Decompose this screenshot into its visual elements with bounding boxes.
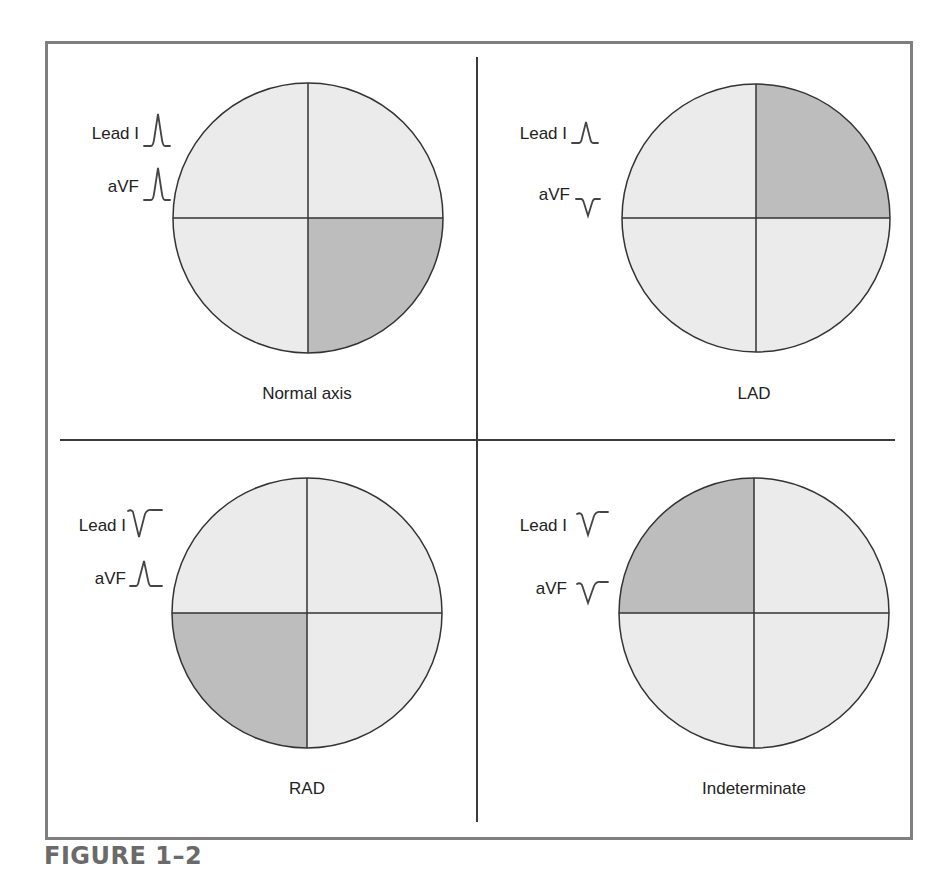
panel-lad-circle [622, 80, 896, 352]
positive-deflection-icon [130, 561, 162, 586]
panel-caption: Indeterminate [702, 779, 806, 799]
panel-caption: RAD [289, 779, 325, 799]
negative-deflection-icon [577, 512, 608, 535]
avf-label: aVF [54, 569, 126, 589]
positive-deflection-icon [144, 168, 170, 200]
positive-deflection-icon [572, 122, 598, 143]
avf-label: aVF [494, 185, 570, 205]
panel-indeterminate-circle [615, 474, 889, 748]
shaded-quadrant [168, 613, 307, 753]
lead-i-label: Lead I [65, 124, 139, 144]
axis-diagram-canvas [0, 0, 941, 878]
shaded-quadrant [756, 80, 896, 218]
panel-normal-axis-circle [173, 83, 448, 358]
avf-label: aVF [65, 177, 139, 197]
shaded-quadrant [308, 218, 448, 358]
panel-caption: LAD [737, 384, 770, 404]
negative-deflection-icon [576, 199, 600, 216]
lead-i-label: Lead I [54, 516, 126, 536]
panel-caption: Normal axis [262, 384, 352, 404]
positive-deflection-icon [144, 114, 170, 146]
shaded-quadrant [615, 474, 754, 613]
lead-i-label: Lead I [494, 124, 567, 144]
negative-deflection-icon [577, 582, 608, 603]
lead-i-label: Lead I [494, 516, 567, 536]
figure-caption: FIGURE 1–2 [44, 842, 202, 870]
negative-deflection-icon [128, 510, 162, 537]
avf-label: aVF [494, 579, 567, 599]
panel-rad-circle [168, 478, 442, 753]
